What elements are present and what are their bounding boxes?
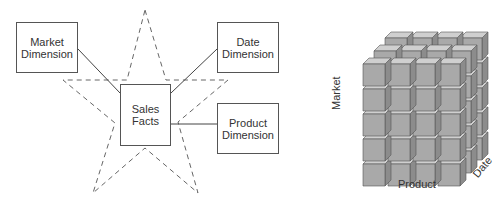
product-dimension-line2: Dimension [222, 129, 274, 141]
product-dimension-line1: Product [229, 117, 267, 129]
product-dimension-box: ProductDimension [217, 103, 279, 154]
market-dimension-line1: Market [30, 36, 64, 48]
market-dimension-box: MarketDimension [16, 22, 78, 73]
sales-facts-line2: Facts [132, 115, 159, 127]
sales-facts-line1: Sales [132, 103, 160, 115]
connector-market [78, 49, 120, 93]
axis-label-market: Market [330, 76, 342, 110]
date-dimension-box: DateDimension [217, 22, 279, 73]
data-cube [363, 32, 488, 186]
sales-facts-box: SalesFacts [120, 84, 171, 146]
connector-date [171, 49, 217, 93]
market-dimension-line2: Dimension [21, 48, 73, 60]
date-dimension-line1: Date [236, 36, 259, 48]
date-dimension-line2: Dimension [222, 48, 274, 60]
axis-label-product: Product [398, 178, 436, 190]
